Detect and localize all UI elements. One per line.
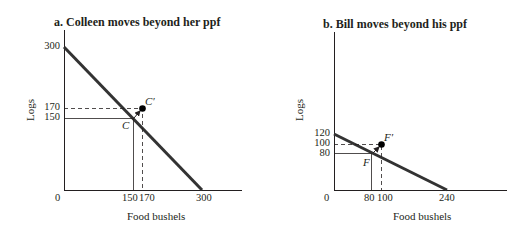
panel-b-origin: 0 — [324, 192, 329, 203]
panel-a-point-c-label: C — [122, 119, 129, 131]
panel-b-x-tick-240: 240 — [439, 192, 455, 203]
panel-a-x-tick-300: 300 — [196, 192, 212, 203]
panel-b-x-tick-80: 80 — [364, 192, 375, 203]
panel-b-point-f-label: F — [363, 156, 370, 168]
panel-a-origin: 0 — [55, 192, 60, 203]
panel-a-y-label: Logs — [24, 98, 36, 122]
panel-a-x-tick-170: 170 — [139, 192, 155, 203]
panel-a-title: a. Colleen moves beyond her ppf — [54, 15, 220, 30]
panel-a-y-tick-300: 300 — [38, 40, 60, 51]
panel-b-x-tick-100: 100 — [377, 192, 393, 203]
panel-a-x-tick-150: 150 — [122, 192, 138, 203]
panel-b-point-f-prime-label: F′ — [384, 131, 393, 143]
panel-a-point-c-prime-label: C′ — [145, 95, 155, 107]
panel-b-x-label: Food bushels — [393, 210, 451, 222]
panel-a-plot — [64, 30, 242, 191]
panel-b-plot — [334, 32, 507, 191]
panel-b-arrow-icon — [373, 147, 379, 153]
panel-a-x-label: Food bushels — [127, 210, 185, 222]
panel-b-title: b. Bill moves beyond his ppf — [323, 17, 467, 32]
panel-b-y-tick-80: 80 — [305, 147, 330, 158]
panel-b-y-label: Logs — [293, 98, 305, 122]
panel-a-arrow-icon — [134, 111, 140, 118]
panel-a-guide-c-prime — [64, 109, 143, 191]
panel-a-y-tick-150: 150 — [38, 111, 60, 122]
